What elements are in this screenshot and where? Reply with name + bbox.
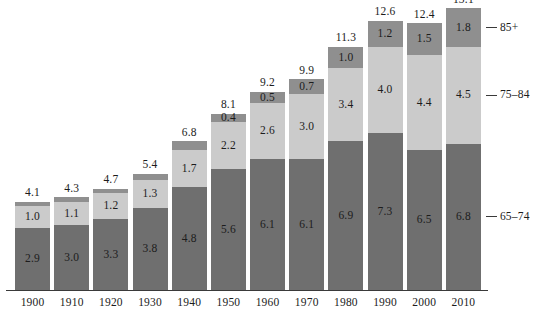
bar-segment-75-84: 4.0 (368, 47, 403, 133)
segment-value-label: 4.4 (417, 97, 432, 109)
segment-value-label: 1.2 (103, 200, 118, 212)
bar-total-label: 4.7 (103, 174, 118, 186)
segment-value-label: 3.0 (64, 252, 79, 264)
segment-value-label: 1.0 (25, 211, 40, 223)
bar-total-label: 12.6 (375, 6, 396, 18)
bar-column: 0.73.06.19.9 (289, 79, 324, 290)
bar-column: 1.54.46.512.4 (407, 23, 442, 290)
bar-segment-65-74: 5.6 (211, 169, 246, 290)
bar-total-label: 11.3 (336, 32, 357, 44)
bar-column: 1.23.34.7 (93, 189, 128, 290)
segment-value-label: 6.1 (260, 219, 275, 231)
segment-value-label: 7.3 (378, 206, 393, 218)
bar-segment-65-74: 6.9 (328, 141, 363, 290)
segment-value-label: 1.3 (143, 188, 158, 200)
bar-column: 1.33.85.4 (133, 174, 168, 290)
x-tick-1920: 1920 (91, 297, 130, 309)
bar-column: 1.03.46.911.3 (328, 47, 363, 290)
segment-value-label: 1.7 (182, 163, 197, 175)
bar-segment-75-84: 1.1 (54, 202, 89, 226)
x-tick-1970: 1970 (287, 297, 326, 309)
plot-area: 1.02.94.11.13.04.31.23.34.71.33.85.41.74… (13, 8, 483, 290)
bar-column: 1.74.86.8 (172, 141, 207, 290)
bar-total-label: 8.1 (221, 99, 236, 111)
stacked-bar-chart: 1.02.94.11.13.04.31.23.34.71.33.85.41.74… (0, 0, 534, 330)
x-tick-2010: 2010 (444, 297, 483, 309)
bar-total-label: 9.2 (260, 77, 275, 89)
segment-value-label: 1.2 (378, 28, 393, 40)
bar-column: 1.13.04.3 (54, 197, 89, 290)
leader-label: 65–74 (500, 211, 530, 223)
bar-segment-85plus: 1.5 (407, 23, 442, 55)
x-tick-1930: 1930 (131, 297, 170, 309)
x-tick-1990: 1990 (366, 297, 405, 309)
bar-column: 1.24.07.312.6 (368, 21, 403, 290)
segment-value-label: 2.2 (221, 140, 236, 152)
bar-segment-65-74: 6.1 (289, 159, 324, 290)
segment-value-label: 3.3 (103, 249, 118, 261)
bar-segment-65-74: 6.8 (446, 144, 481, 290)
bar-segment-85plus: 1.8 (446, 8, 481, 47)
segment-value-label: 6.5 (417, 214, 432, 226)
bar-segment-85plus: 1.0 (328, 47, 363, 69)
bar-segment-75-84: 1.2 (93, 193, 128, 219)
leader-line (486, 216, 497, 217)
x-tick-1900: 1900 (13, 297, 52, 309)
bar-column: 0.52.66.19.2 (250, 92, 285, 290)
segment-value-label: 4.8 (182, 233, 197, 245)
bar-segment-85plus: 1.2 (368, 21, 403, 47)
bar-segment-65-74: 6.5 (407, 150, 442, 290)
bar-segment-75-84: 1.0 (15, 206, 50, 228)
bar-total-label: 6.8 (182, 127, 197, 139)
x-tick-1980: 1980 (326, 297, 365, 309)
bar-segment-85plus: 0.5 (250, 92, 285, 103)
bar-segment-75-84: 3.0 (289, 94, 324, 159)
x-tick-1910: 1910 (52, 297, 91, 309)
leader-annotation-85plus: 85+ (486, 21, 519, 33)
segment-value-label: 4.5 (456, 89, 471, 101)
bar-segment-65-74: 2.9 (15, 228, 50, 290)
segment-value-label: 0.7 (299, 81, 314, 93)
bar-segment-65-74: 7.3 (368, 133, 403, 290)
segment-value-label: 3.4 (338, 99, 353, 111)
x-tick-1960: 1960 (248, 297, 287, 309)
leader-label: 85+ (500, 22, 519, 34)
leader-annotation-75–84: 75–84 (486, 89, 530, 101)
bar-segment-65-74: 3.0 (54, 225, 89, 290)
bar-total-label: 12.4 (414, 9, 435, 21)
bar-segment-75-84: 1.7 (172, 150, 207, 187)
segment-value-label: 6.9 (338, 210, 353, 222)
segment-value-label: 1.0 (338, 52, 353, 64)
segment-value-label: 1.8 (456, 22, 471, 34)
bar-total-label: 4.1 (25, 187, 40, 199)
bar-segment-65-74: 4.8 (172, 187, 207, 290)
bar-total-label: 9.9 (299, 65, 314, 77)
x-tick-2000: 2000 (405, 297, 444, 309)
bar-segment-65-74: 3.8 (133, 208, 168, 290)
leader-annotation-65–74: 65–74 (486, 211, 530, 223)
bar-total-label: 5.4 (143, 159, 158, 171)
leader-line (486, 95, 497, 96)
segment-value-label: 2.6 (260, 125, 275, 137)
x-axis-tick-labels: 1900191019201930194019501960197019801990… (13, 294, 483, 318)
segment-value-label: 3.0 (299, 121, 314, 133)
bar-segment-75-84: 4.5 (446, 47, 481, 144)
segment-value-label: 4.0 (378, 84, 393, 96)
x-tick-1940: 1940 (170, 297, 209, 309)
bar-segment-75-84: 1.3 (133, 180, 168, 208)
bar-total-label: 13.1 (453, 0, 474, 5)
x-axis-line (6, 290, 488, 291)
leader-label: 75–84 (500, 89, 530, 101)
bar-segment-85plus: 0.7 (289, 79, 324, 94)
segment-value-label: 0.5 (260, 92, 275, 104)
bar-total-label: 4.3 (64, 183, 79, 195)
segment-value-label: 6.8 (456, 211, 471, 223)
segment-value-label: 6.1 (299, 219, 314, 231)
segment-value-label: 1.1 (64, 208, 79, 220)
bar-segment-85plus: 0.4 (211, 114, 246, 123)
bar-segment-65-74: 3.3 (93, 219, 128, 290)
bar-column: 1.84.56.813.1 (446, 8, 481, 290)
bar-segment-65-74: 6.1 (250, 159, 285, 290)
bar-column: 1.02.94.1 (15, 202, 50, 290)
bar-segment-85plus (172, 141, 207, 150)
